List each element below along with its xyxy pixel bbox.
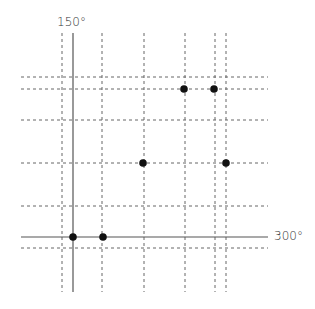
horizontal-axis-label: 300° (274, 229, 303, 243)
data-point (69, 233, 77, 241)
data-point (139, 159, 147, 167)
grid-diagram (0, 0, 315, 309)
data-point (210, 85, 218, 93)
data-point (180, 85, 188, 93)
vertical-axis-label: 150° (57, 15, 86, 29)
data-point (222, 159, 230, 167)
data-point (99, 233, 107, 241)
